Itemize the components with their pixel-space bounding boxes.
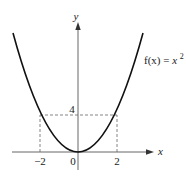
x-tick-2: 2 (114, 155, 120, 167)
y-tick-4: 4 (69, 103, 75, 115)
function-name: f(x) (144, 54, 161, 67)
function-label: f(x) = x 2 (144, 52, 184, 67)
x-tick-neg2: −2 (34, 155, 46, 167)
equals-sign: = (163, 54, 172, 66)
function-exponent: 2 (180, 52, 184, 61)
function-expr: x (171, 54, 177, 66)
x-axis-arrow-icon (146, 149, 154, 154)
x-tick-0: 0 (70, 155, 76, 167)
y-axis-arrow-icon (75, 22, 80, 30)
y-axis-label: y (73, 10, 79, 22)
x-axis-label: x (157, 145, 163, 157)
parabola-diagram: y x f(x) = x 2 −2 0 2 4 (0, 0, 186, 179)
